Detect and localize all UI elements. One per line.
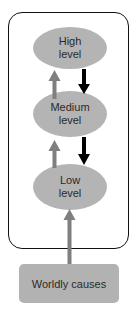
worldly-causes-label: Worldly causes [32,278,106,290]
down-arrow-medium-to-low [78,137,90,165]
high-level-label: High level [59,35,82,61]
medium-level-label: Medium level [50,101,89,127]
low-level-node: Low level [33,164,107,210]
high-level-node: High level [33,27,107,69]
low-level-label: Low level [59,174,82,200]
medium-level-node: Medium level [33,91,107,137]
up-arrow-worldly-to-low [64,209,76,265]
worldly-causes-box: Worldly causes [19,264,119,303]
